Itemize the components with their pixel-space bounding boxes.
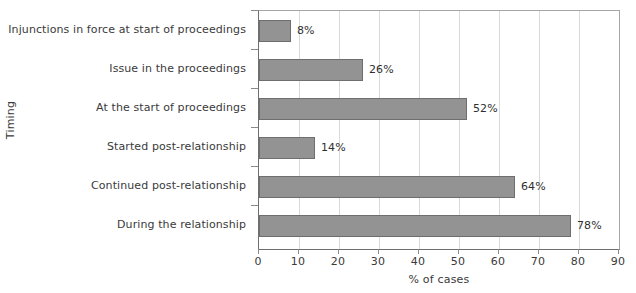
x-axis-tick-label: 60 [478, 255, 518, 268]
x-axis-tick-label: 80 [558, 255, 598, 268]
x-axis-tick-label: 50 [438, 255, 478, 268]
category-label: Started post-relationship [107, 136, 246, 158]
y-axis-tick [251, 88, 258, 89]
y-axis-tick [251, 205, 258, 206]
x-axis-tick-label: 90 [598, 255, 636, 268]
bar [259, 176, 515, 198]
bar-value-label: 64% [521, 176, 546, 198]
x-axis-tick [298, 249, 299, 254]
category-label: At the start of proceedings [96, 97, 246, 119]
x-axis-tick [498, 249, 499, 254]
x-axis-tick-label: 70 [518, 255, 558, 268]
bar [259, 137, 315, 159]
bar-value-label: 26% [369, 59, 394, 81]
bar [259, 215, 571, 237]
bar [259, 59, 363, 81]
category-label: Injunctions in force at start of proceed… [8, 19, 246, 41]
x-axis-tick [578, 249, 579, 254]
category-label: During the relationship [117, 214, 246, 236]
x-axis-tick [538, 249, 539, 254]
x-axis-tick-label: 10 [278, 255, 318, 268]
category-label-column: Injunctions in force at start of proceed… [0, 10, 252, 248]
x-axis-tick [378, 249, 379, 254]
category-label: Continued post-relationship [91, 175, 246, 197]
y-axis-tick [251, 127, 258, 128]
category-label: Issue in the proceedings [109, 58, 246, 80]
bar-value-label: 8% [297, 20, 315, 42]
bar-value-label: 78% [577, 215, 602, 237]
y-axis-tick [251, 10, 258, 11]
gridline [379, 11, 380, 249]
gridline [419, 11, 420, 249]
bar-value-label: 14% [321, 137, 346, 159]
x-axis-tick [338, 249, 339, 254]
x-axis-tick [618, 249, 619, 254]
bar-chart: Timing Injunctions in force at start of … [0, 0, 636, 293]
gridline [499, 11, 500, 249]
x-axis-tick-label: 30 [358, 255, 398, 268]
bar [259, 98, 467, 120]
x-axis-tick-label: 0 [238, 255, 278, 268]
gridline [299, 11, 300, 249]
x-axis-tick [458, 249, 459, 254]
x-axis-title: % of cases [258, 273, 620, 286]
gridline [459, 11, 460, 249]
plot-area: 8% 26% 52% 14% 64% 78% [258, 10, 620, 250]
y-axis-tick [251, 166, 258, 167]
gridline [579, 11, 580, 249]
x-axis-tick [418, 249, 419, 254]
bar-value-label: 52% [473, 98, 498, 120]
gridline [539, 11, 540, 249]
x-axis-tick-labels: 0102030405060708090 [0, 255, 636, 271]
y-axis-tick [251, 49, 258, 50]
x-axis-tick-label: 40 [398, 255, 438, 268]
x-axis-tick [258, 249, 259, 254]
bar [259, 20, 291, 42]
gridline [339, 11, 340, 249]
x-axis-tick-label: 20 [318, 255, 358, 268]
